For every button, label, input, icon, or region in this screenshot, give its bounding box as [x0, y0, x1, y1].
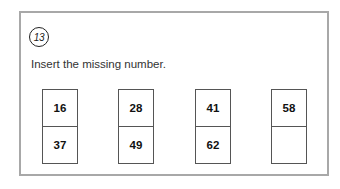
pair-2-top: 28 [119, 90, 153, 127]
number-pair-3: 41 62 [195, 89, 231, 164]
pair-3-bottom: 62 [196, 127, 230, 163]
pair-3-top: 41 [196, 90, 230, 127]
question-number-badge: 13 [29, 27, 49, 47]
number-pair-4: 58 [271, 89, 307, 164]
instruction-text: Insert the missing number. [31, 58, 166, 70]
pair-4-top: 58 [272, 90, 306, 127]
missing-number-cell[interactable] [272, 127, 306, 163]
pair-1-top: 16 [43, 90, 77, 127]
number-pair-2: 28 49 [118, 89, 154, 164]
number-pair-1: 16 37 [42, 89, 78, 164]
pair-2-bottom: 49 [119, 127, 153, 163]
pair-1-bottom: 37 [43, 127, 77, 163]
question-number: 13 [34, 32, 45, 43]
